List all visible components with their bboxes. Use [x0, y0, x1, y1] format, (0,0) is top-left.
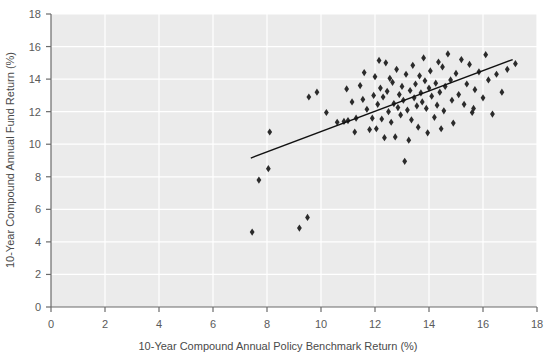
- y-tick-label: 16: [29, 41, 41, 53]
- plot-area-background: [51, 14, 537, 307]
- y-tick-label: 6: [35, 203, 41, 215]
- x-tick-label: 12: [369, 318, 381, 330]
- y-tick-label: 0: [35, 301, 41, 313]
- x-tick-label: 8: [264, 318, 270, 330]
- chart-canvas: 024681012141618 024681012141618 10-Year …: [0, 0, 557, 354]
- y-axis-title: 10-Year Compound Annual Fund Return (%): [4, 52, 16, 268]
- y-tick-label: 12: [29, 106, 41, 118]
- x-tick-label: 4: [156, 318, 162, 330]
- x-tick-label: 18: [531, 318, 543, 330]
- y-tick-label: 2: [35, 268, 41, 280]
- scatter-chart: 024681012141618 024681012141618 10-Year …: [0, 0, 557, 354]
- y-tick-label: 18: [29, 8, 41, 20]
- y-tick-label: 8: [35, 171, 41, 183]
- x-tick-label: 6: [210, 318, 216, 330]
- x-tick-label: 2: [102, 318, 108, 330]
- x-axis-title: 10-Year Compound Annual Policy Benchmark…: [138, 340, 417, 352]
- x-tick-label: 0: [48, 318, 54, 330]
- x-tick-label: 16: [477, 318, 489, 330]
- y-tick-label: 10: [29, 138, 41, 150]
- y-tick-label: 4: [35, 236, 41, 248]
- x-tick-label: 14: [423, 318, 435, 330]
- x-tick-label: 10: [315, 318, 327, 330]
- y-tick-label: 14: [29, 73, 41, 85]
